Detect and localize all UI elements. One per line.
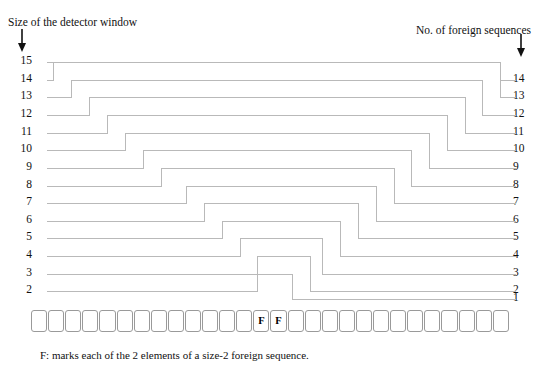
sequence-cell (236, 310, 252, 332)
sequence-cell (48, 310, 64, 332)
step-line-window-15 (47, 62, 516, 80)
sequence-cell (31, 310, 47, 332)
sequence-cell (476, 310, 492, 332)
sequence-cell (373, 310, 389, 332)
sequence-cell (168, 310, 184, 332)
figure-canvas: Size of the detector window No. of forei… (0, 0, 547, 368)
sequence-cell (82, 310, 98, 332)
sequence-cell (288, 310, 304, 332)
sequence-cell (493, 310, 509, 332)
sequence-cell-foreign: F (270, 310, 286, 332)
sequence-cell (117, 310, 133, 332)
step-line-window-2 (47, 274, 516, 299)
sequence-cell (185, 310, 201, 332)
sequence-cell (99, 310, 115, 332)
sequence-cell (424, 310, 440, 332)
sequence-cell (322, 310, 338, 332)
sequence-cell-foreign: F (253, 310, 269, 332)
sequence-cell (459, 310, 475, 332)
sequence-cell (390, 310, 406, 332)
sequence-cell (134, 310, 150, 332)
sequence-cell (202, 310, 218, 332)
sequence-cell (151, 310, 167, 332)
sequence-cell (407, 310, 423, 332)
sequence-cell (441, 310, 457, 332)
sequence-cell (219, 310, 235, 332)
sequence-cell (305, 310, 321, 332)
sequence-cell (339, 310, 355, 332)
figure-caption: F: marks each of the 2 elements of a siz… (40, 349, 309, 361)
sequence-cell (65, 310, 81, 332)
sequence-cell (356, 310, 372, 332)
